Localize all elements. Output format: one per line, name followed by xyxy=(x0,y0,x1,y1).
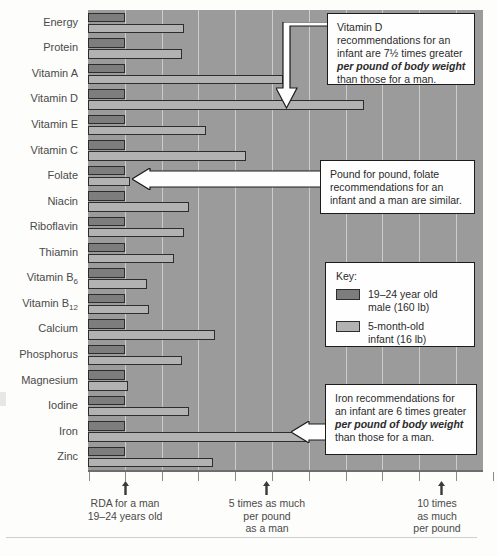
bar-infant xyxy=(88,228,184,238)
legend-item-male: 19–24 year old male (160 lb) xyxy=(336,288,465,314)
bar-infant xyxy=(88,407,189,417)
y-label-phosphorus: Phosphorus xyxy=(19,348,78,360)
x-tick-2x xyxy=(162,472,163,481)
bar-male xyxy=(88,421,125,431)
callout-vitamin-d-emphasis: per pound of body weight xyxy=(337,60,465,72)
bar-infant xyxy=(88,356,182,366)
x-tick-3x xyxy=(198,472,199,481)
bar-male xyxy=(88,396,125,406)
x-tick-11x xyxy=(493,472,494,481)
bar-infant xyxy=(88,24,184,34)
bar-male xyxy=(88,64,125,74)
bar-male xyxy=(88,38,125,48)
bar-infant xyxy=(88,49,182,59)
bar-male xyxy=(88,166,125,176)
bar-male xyxy=(88,140,125,150)
bar-group xyxy=(88,115,483,136)
bar-infant xyxy=(88,330,215,340)
y-label-niacin: Niacin xyxy=(47,195,78,207)
legend-swatch-infant xyxy=(336,321,360,332)
bar-male xyxy=(88,447,125,457)
bar-male xyxy=(88,319,125,329)
x-tick-7x xyxy=(346,472,347,481)
bar-infant xyxy=(88,151,246,161)
callout-iron: Iron recommendations for an infant are 6… xyxy=(325,384,477,455)
x-tick-6x xyxy=(309,472,310,481)
legend-swatch-male xyxy=(336,289,360,300)
bar-infant xyxy=(88,305,149,315)
y-label-magnesium: Magnesium xyxy=(21,374,78,386)
y-label-vitamin-d: Vitamin D xyxy=(31,92,78,104)
axis-arrow-1x xyxy=(121,481,130,495)
bar-infant xyxy=(88,279,147,289)
y-label-iron: Iron xyxy=(59,425,78,437)
y-label-thiamin: Thiamin xyxy=(39,246,78,258)
x-tick-0x xyxy=(89,472,90,481)
axis-note-10x-line2: as much xyxy=(417,510,457,522)
bar-male xyxy=(88,345,125,355)
y-label-folate: Folate xyxy=(47,169,78,181)
legend-label-infant-line2: infant (16 lb) xyxy=(368,333,426,345)
bar-male xyxy=(88,294,125,304)
bar-infant xyxy=(88,177,130,187)
axis-note-10x: 10 times as much per pound xyxy=(372,497,498,535)
legend-label-male-line2: male (160 lb) xyxy=(368,301,429,313)
x-tick-5x xyxy=(272,472,273,481)
bar-infant xyxy=(88,75,283,85)
legend-title: Key: xyxy=(336,270,465,283)
callout-iron-emphasis: per pound of body weight xyxy=(335,418,463,430)
y-label-vitamin-c: Vitamin C xyxy=(31,144,78,156)
x-tick-1x xyxy=(125,472,126,481)
callout-folate: Pound for pound, folate recommendations … xyxy=(320,160,475,214)
x-tick-9x xyxy=(419,472,420,481)
bar-infant xyxy=(88,432,309,442)
y-axis-category-labels: EnergyProteinVitamin AVitamin DVitamin E… xyxy=(0,10,84,470)
y-label-calcium: Calcium xyxy=(38,322,78,334)
y-label-zinc: Zinc xyxy=(57,450,78,462)
page-edge-mark xyxy=(0,392,6,406)
bar-male xyxy=(88,191,125,201)
y-label-vitamin-b12: Vitamin B12 xyxy=(22,297,78,314)
y-label-vitamin-e: Vitamin E xyxy=(31,118,78,130)
axis-note-5x-line3: as a man xyxy=(245,522,288,534)
callout-iron-text-1: Iron recommendations for an infant are 6… xyxy=(335,392,466,417)
axis-note-1x-line2: 19–24 years old xyxy=(88,510,163,522)
bar-group xyxy=(88,140,483,161)
bar-male xyxy=(88,217,125,227)
legend-label-male: 19–24 year old male (160 lb) xyxy=(368,288,437,314)
callout-vitamin-d-text-2: than those for a man. xyxy=(337,73,436,85)
bar-infant xyxy=(88,202,189,212)
y-label-riboflavin: Riboflavin xyxy=(30,220,78,232)
legend-label-male-line1: 19–24 year old xyxy=(368,288,437,300)
bar-group xyxy=(88,217,483,238)
callout-folate-text: Pound for pound, folate recommendations … xyxy=(330,168,462,206)
axis-note-1x-line1: RDA for a man xyxy=(91,497,160,509)
axis-arrow-5x xyxy=(262,481,271,495)
bar-infant xyxy=(88,126,206,136)
axis-note-10x-line1: 10 times xyxy=(417,497,457,509)
y-label-vitamin-a: Vitamin A xyxy=(32,67,78,79)
y-label-protein: Protein xyxy=(43,41,78,53)
bar-male xyxy=(88,89,125,99)
legend-label-infant: 5-month-old infant (16 lb) xyxy=(368,320,426,346)
bar-male xyxy=(88,13,125,23)
bar-male xyxy=(88,370,125,380)
bar-group xyxy=(88,345,483,366)
bar-infant xyxy=(88,254,174,264)
legend-box: Key: 19–24 year old male (160 lb) 5-mont… xyxy=(325,262,475,347)
y-label-iodine: Iodine xyxy=(48,399,78,411)
x-tick-8x xyxy=(382,472,383,481)
bar-infant xyxy=(88,458,213,468)
callout-vitamin-d-text-1: Vitamin D recommendations for an infant … xyxy=(337,21,462,59)
legend-label-infant-line1: 5-month-old xyxy=(368,320,424,332)
callout-vitamin-d: Vitamin D recommendations for an infant … xyxy=(327,13,475,85)
bar-group xyxy=(88,243,483,264)
bar-infant xyxy=(88,381,128,391)
axis-note-5x: 5 times as much per pound as a man xyxy=(187,497,347,535)
axis-note-5x-line2: per pound xyxy=(243,510,290,522)
legend-item-infant: 5-month-old infant (16 lb) xyxy=(336,320,465,346)
callout-pointer-folate xyxy=(132,168,326,190)
bar-male xyxy=(88,243,125,253)
x-axis-line xyxy=(88,470,483,472)
